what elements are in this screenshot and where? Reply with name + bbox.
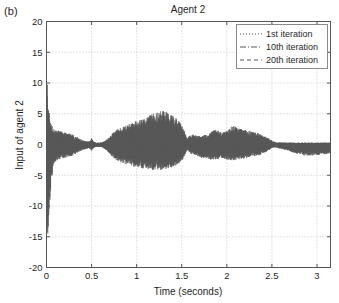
legend-label-2: 20th iteration bbox=[266, 55, 318, 65]
legend-line-dashed-icon bbox=[239, 55, 263, 65]
svg-text:-20: -20 bbox=[29, 262, 43, 273]
svg-text:0: 0 bbox=[44, 270, 49, 281]
legend-line-dotted-icon bbox=[239, 29, 263, 39]
svg-text:0: 0 bbox=[37, 139, 42, 150]
svg-text:3: 3 bbox=[314, 270, 319, 281]
signal-trace bbox=[47, 85, 331, 234]
svg-text:1: 1 bbox=[134, 270, 139, 281]
svg-text:15: 15 bbox=[32, 47, 43, 58]
legend-line-dashdot-icon bbox=[239, 42, 263, 52]
legend-item-0[interactable]: 1st iteration bbox=[239, 27, 325, 40]
svg-text:-5: -5 bbox=[34, 170, 42, 181]
legend-label-1: 10th iteration bbox=[266, 42, 318, 52]
svg-text:5: 5 bbox=[37, 108, 42, 119]
svg-text:2: 2 bbox=[224, 270, 229, 281]
svg-text:0.5: 0.5 bbox=[85, 270, 98, 281]
legend[interactable]: 1st iteration 10th iteration 20th iterat… bbox=[236, 24, 328, 69]
svg-text:-15: -15 bbox=[29, 231, 43, 242]
svg-text:1.5: 1.5 bbox=[175, 270, 188, 281]
legend-item-2[interactable]: 20th iteration bbox=[239, 53, 325, 66]
legend-label-0: 1st iteration bbox=[266, 29, 313, 39]
legend-item-1[interactable]: 10th iteration bbox=[239, 40, 325, 53]
figure-panel: (b) Agent 2 Input of agent 2 Time (secon… bbox=[0, 0, 339, 303]
svg-text:10: 10 bbox=[32, 77, 43, 88]
svg-text:2.5: 2.5 bbox=[265, 270, 278, 281]
svg-text:-10: -10 bbox=[29, 200, 43, 211]
svg-text:20: 20 bbox=[32, 16, 43, 27]
